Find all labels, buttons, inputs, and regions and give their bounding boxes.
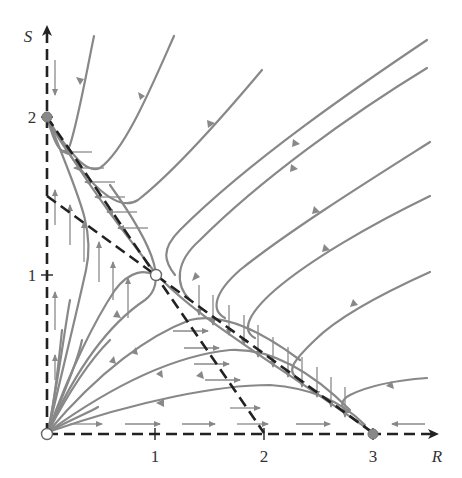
trajectory xyxy=(342,378,427,412)
equilibrium-origin-unstable xyxy=(42,429,53,440)
arrow-icon xyxy=(109,356,116,364)
y-tick-1: 1 xyxy=(28,266,37,285)
arrow-icon xyxy=(292,139,300,147)
trajectory xyxy=(48,272,155,432)
x-tick-2: 2 xyxy=(260,447,269,466)
arrow-icon xyxy=(290,164,298,172)
trajectory xyxy=(180,68,427,300)
equilibrium-s-stable xyxy=(42,112,52,122)
x-axis-label: R xyxy=(431,447,443,466)
arrow-icon xyxy=(113,310,121,318)
trajectory xyxy=(48,318,300,432)
equilibrium-saddle xyxy=(151,270,162,281)
arrow-icon xyxy=(196,371,204,379)
y-tick-2: 2 xyxy=(28,108,37,127)
trajectory xyxy=(292,272,430,380)
phase-plane-diagram: 1 2 3 1 2 R S xyxy=(0,0,462,478)
tick-labels: 1 2 3 1 2 R S xyxy=(24,27,443,466)
trajectories xyxy=(48,36,430,432)
arrow-icon xyxy=(156,370,163,378)
equilibrium-r-stable xyxy=(368,429,378,439)
trajectory xyxy=(248,196,430,338)
y-axis-label: S xyxy=(24,27,33,46)
arrow-icon xyxy=(76,77,84,85)
arrow-icon xyxy=(138,92,145,100)
arrow-icon xyxy=(350,299,358,307)
x-tick-3: 3 xyxy=(369,447,378,466)
x-tick-1: 1 xyxy=(151,447,160,466)
arrow-icon xyxy=(192,272,200,281)
